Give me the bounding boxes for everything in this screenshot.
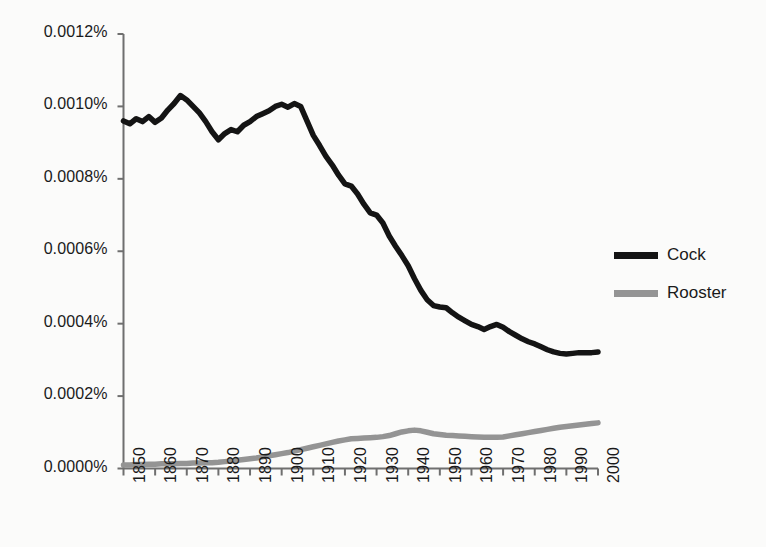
x-tick-label: 1880 xyxy=(225,447,243,483)
y-tick-label: 0.0010% xyxy=(0,95,108,113)
x-tick-label: 1940 xyxy=(415,447,433,483)
x-tick-label: 1980 xyxy=(542,447,560,483)
x-tick-label: 2000 xyxy=(605,447,623,483)
series-group xyxy=(124,96,599,465)
legend-label-cock: Cock xyxy=(667,245,706,265)
x-tick-label: 1970 xyxy=(510,447,528,483)
x-tick-label: 1910 xyxy=(320,447,338,483)
x-tick-label: 1890 xyxy=(257,447,275,483)
y-tick-label: 0.0012% xyxy=(0,23,108,41)
line-chart: 0.0012%0.0010%0.0008%0.0006%0.0004%0.000… xyxy=(0,0,766,547)
y-tick-label: 0.0000% xyxy=(0,458,108,476)
x-tick-label: 1860 xyxy=(162,447,180,483)
legend-label-rooster: Rooster xyxy=(667,283,727,303)
legend-swatch-rooster xyxy=(614,290,658,297)
series-line-cock xyxy=(124,96,599,355)
legend-item-rooster: Rooster xyxy=(614,274,764,312)
x-tick-label: 1870 xyxy=(194,447,212,483)
axes-group xyxy=(123,34,598,469)
legend-swatch-cock xyxy=(614,252,658,259)
y-tick-label: 0.0008% xyxy=(0,168,108,186)
legend-item-cock: Cock xyxy=(614,236,764,274)
chart-legend: Cock Rooster xyxy=(614,236,764,312)
x-tick-label: 1850 xyxy=(131,447,149,483)
x-tick-label: 1950 xyxy=(447,447,465,483)
x-tick-label: 1920 xyxy=(352,447,370,483)
x-tick-label: 1990 xyxy=(573,447,591,483)
y-tick-label: 0.0006% xyxy=(0,240,108,258)
x-tick-label: 1960 xyxy=(478,447,496,483)
x-tick-label: 1900 xyxy=(289,447,307,483)
y-tick-label: 0.0004% xyxy=(0,313,108,331)
x-tick-label: 1930 xyxy=(384,447,402,483)
y-tick-label: 0.0002% xyxy=(0,385,108,403)
